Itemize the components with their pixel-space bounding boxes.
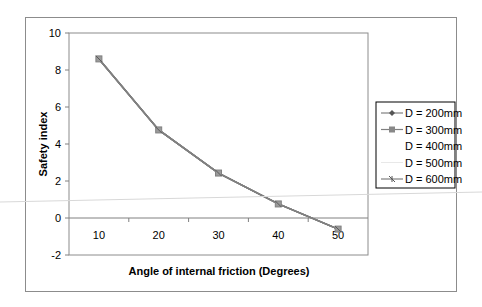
y-tick-label: 2 [55,175,61,187]
x-tick-label: 30 [212,229,224,241]
x-tick-label: 40 [272,229,284,241]
y-tick-label: 0 [55,212,61,224]
legend-label: D = 300mm [405,124,462,136]
legend-item: D = 400mm [405,140,462,152]
chart-svg: -20246810 1020304050 Safety index Angle … [0,0,482,307]
y-tick-label: 10 [49,27,61,39]
y-axis-title: Safety index [37,111,49,177]
plot-area [69,33,368,255]
y-tick-label: -2 [51,249,61,261]
legend-label: D = 200mm [405,107,462,119]
legend-label: D = 400mm [405,140,462,152]
y-tick-label: 4 [55,138,61,150]
x-axis-title: Angle of internal friction (Degrees) [129,265,310,277]
legend: D = 200mmD = 300mmD = 400mmD = 500mmD = … [376,102,462,188]
y-tick-label: 8 [55,64,61,76]
square-marker-icon [389,127,395,133]
x-tick-label: 20 [153,229,165,241]
y-tick-label: 6 [55,101,61,113]
x-tick-label: 10 [93,229,105,241]
legend-label: D = 600mm [405,173,462,185]
legend-label: D = 500mm [405,157,462,169]
y-axis: -20246810 [49,27,69,261]
